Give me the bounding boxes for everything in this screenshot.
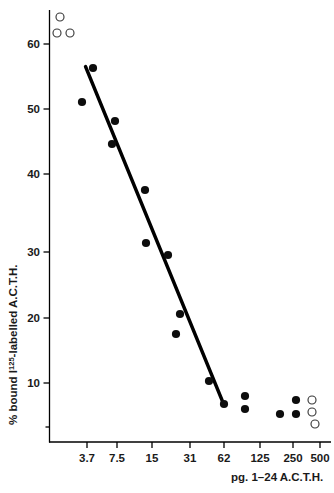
y-tick-label: 30 <box>27 246 40 258</box>
data-point <box>220 400 228 408</box>
data-point <box>164 251 172 259</box>
x-tick-label: 125 <box>250 452 270 464</box>
data-point <box>292 396 300 404</box>
y-tick-label: 60 <box>27 38 40 50</box>
x-axis-title: pg. 1–24 A.C.T.H. <box>231 471 323 483</box>
data-point <box>78 98 86 106</box>
control-point <box>308 396 316 404</box>
y-tick-label: 10 <box>27 377 40 389</box>
x-tick-label: 250 <box>283 452 302 464</box>
data-point <box>172 330 180 338</box>
y-axis-title-suffix: -labelled A.C.T.H. <box>7 265 19 358</box>
control-point <box>308 408 316 416</box>
fitted-regression-line <box>86 67 225 406</box>
control-point <box>311 420 319 428</box>
data-point <box>205 377 213 385</box>
data-point <box>241 392 249 400</box>
y-axis-ticks: 60 50 40 30 20 10 <box>27 38 50 427</box>
data-point <box>292 410 300 418</box>
y-axis-title: % bound I125-labelled A.C.T.H. <box>7 265 20 425</box>
x-tick-label: 62 <box>218 452 231 464</box>
data-point <box>142 239 150 247</box>
data-point <box>141 186 149 194</box>
x-axis-ticks: 3.7 7.5 15 31 62 125 250 500 <box>79 442 330 464</box>
y-axis-title-superscript: 125 <box>7 357 16 370</box>
data-points-open <box>53 13 319 428</box>
x-tick-label: 3.7 <box>79 452 95 464</box>
x-tick-label: 7.5 <box>109 452 126 464</box>
axes-group <box>49 10 331 443</box>
x-tick-label: 15 <box>146 452 159 464</box>
control-point <box>56 13 64 21</box>
y-tick-label: 50 <box>27 103 40 115</box>
y-axis-title-prefix: % bound I <box>7 370 19 425</box>
data-point <box>89 64 97 72</box>
x-tick-label: 500 <box>310 452 329 464</box>
y-tick-label: 40 <box>27 168 40 180</box>
data-point <box>176 310 184 318</box>
chart-figure: 60 50 40 30 20 10 3.7 7.5 15 31 62 125 2… <box>0 0 334 493</box>
data-points-filled <box>78 64 300 418</box>
control-point <box>53 29 61 37</box>
control-point <box>66 29 74 37</box>
data-point <box>276 410 284 418</box>
x-tick-label: 31 <box>184 452 197 464</box>
data-point <box>111 117 119 125</box>
data-point <box>108 140 116 148</box>
y-tick-label: 20 <box>27 312 40 324</box>
standard-curve-plot: 60 50 40 30 20 10 3.7 7.5 15 31 62 125 2… <box>0 0 334 493</box>
data-point <box>241 405 249 413</box>
